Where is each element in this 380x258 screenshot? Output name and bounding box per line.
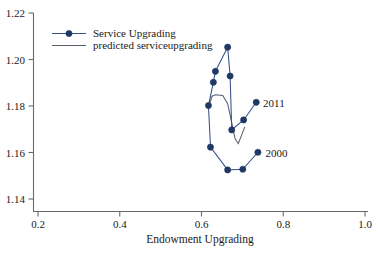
x-tick-label: 0.2 bbox=[31, 218, 45, 230]
chart-canvas: 1.141.161.181.201.22 0.20.40.60.81.0 201… bbox=[0, 0, 380, 258]
annotation-label: 2011 bbox=[263, 97, 285, 109]
x-tick-label: 1.0 bbox=[358, 218, 372, 230]
annotation-label: 2000 bbox=[266, 147, 289, 159]
data-point-marker bbox=[210, 79, 216, 85]
y-tick-label: 1.22 bbox=[6, 7, 25, 19]
x-tick-label: 0.8 bbox=[276, 218, 290, 230]
legend-marker-icon bbox=[66, 30, 72, 36]
data-point-marker bbox=[205, 102, 211, 108]
legend-label-service-upgrading: Service Upgrading bbox=[93, 27, 176, 39]
data-point-marker bbox=[225, 167, 231, 173]
data-point-marker bbox=[225, 44, 231, 50]
data-point-marker bbox=[253, 99, 259, 105]
y-tick-label: 1.20 bbox=[6, 54, 26, 66]
data-point-marker bbox=[207, 144, 213, 150]
data-point-marker bbox=[241, 117, 247, 123]
y-tick-label: 1.16 bbox=[6, 147, 26, 159]
x-tick-label: 0.6 bbox=[195, 218, 209, 230]
data-point-marker bbox=[240, 166, 246, 172]
data-point-marker bbox=[255, 149, 261, 155]
chart-figure: 1.141.161.181.201.22 0.20.40.60.81.0 201… bbox=[0, 0, 380, 258]
data-point-marker bbox=[229, 127, 235, 133]
y-tick-label: 1.18 bbox=[6, 100, 26, 112]
y-tick-label: 1.14 bbox=[6, 193, 26, 205]
x-axis-title: Endowment Upgrading bbox=[146, 233, 254, 246]
data-point-marker bbox=[227, 73, 233, 79]
legend-label-predicted-serviceupgrading: predicted serviceupgrading bbox=[93, 39, 213, 51]
x-tick-label: 0.4 bbox=[113, 218, 127, 230]
data-point-marker bbox=[212, 68, 218, 74]
